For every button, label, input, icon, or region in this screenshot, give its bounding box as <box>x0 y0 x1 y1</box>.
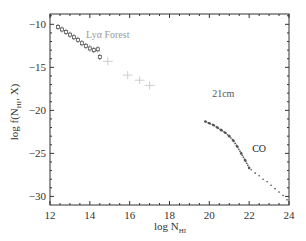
y-tick-label: −15 <box>29 61 47 73</box>
y-tick-label: −30 <box>29 190 47 202</box>
x-tick-label: 22 <box>244 209 255 221</box>
y-tick-labels: −10−15−20−25−30 <box>29 18 47 202</box>
x-tick-label: 24 <box>284 209 296 221</box>
chart: 12141618202224 −10−15−20−25−30 Lyα Fores… <box>0 0 306 241</box>
annotations: Lyα Forest21cmCO <box>86 29 266 154</box>
x-tick-label: 20 <box>204 209 216 221</box>
y-tick-label: −20 <box>29 104 47 116</box>
annotation-label: Lyα Forest <box>86 29 130 40</box>
axis-ticks <box>50 14 289 205</box>
x-tick-label: 16 <box>124 209 136 221</box>
annotation-label: 21cm <box>212 88 234 99</box>
x-tick-label: 14 <box>84 209 96 221</box>
series-21cm <box>204 120 250 169</box>
series-co <box>250 169 287 201</box>
x-axis-label: log NHI <box>154 220 187 235</box>
y-tick-label: −25 <box>29 147 47 159</box>
series-ly-forest-extended- <box>103 57 155 89</box>
annotation-label: CO <box>252 143 266 154</box>
y-tick-label: −10 <box>29 18 47 30</box>
y-axis-label: log f(NHI, X) <box>8 83 23 140</box>
data-series <box>56 24 287 201</box>
plot-frame <box>50 14 289 205</box>
x-tick-label: 12 <box>45 209 56 221</box>
